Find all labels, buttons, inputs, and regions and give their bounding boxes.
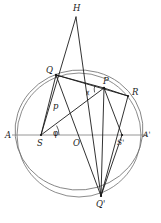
segment-S-P (41, 88, 104, 135)
point-label-Sprime: S' (117, 138, 124, 147)
segment-P-Qprime (101, 88, 104, 196)
tilted-ellipse (9, 64, 149, 197)
point-label-Q: Q (46, 65, 53, 75)
geometry-figure: H Q P R A S O S' A' Q' p φ χ (0, 0, 161, 223)
annotation-label-phi: φ (53, 129, 58, 138)
segment-Q-Qprime (56, 75, 101, 196)
vertex-dot-P (103, 87, 105, 89)
segment-P-R (104, 88, 128, 96)
conic-curves (9, 64, 149, 197)
point-label-H: H (72, 3, 81, 13)
vertex-dot-Q (55, 74, 57, 76)
vertex-dot-R (127, 95, 129, 97)
geometry-canvas: H Q P R A S O S' A' Q' p φ χ (0, 0, 161, 223)
vertex-dot-Qprime (100, 195, 102, 197)
point-label-R: R (131, 87, 139, 97)
annotation-label-chi: χ (86, 88, 90, 96)
vertex-dot-Sprime (121, 134, 123, 136)
point-label-P: P (102, 76, 109, 86)
point-label-S: S (37, 138, 43, 148)
point-label-A: A (4, 130, 11, 140)
point-label-O: O (73, 138, 80, 148)
point-labels: H Q P R A S O S' A' Q' (4, 3, 150, 209)
vertex-dot-S (40, 134, 42, 136)
annotation-label-p: p (53, 101, 59, 111)
angle-arc-chi (94, 86, 95, 93)
point-label-Qprime: Q' (96, 199, 105, 209)
point-label-Aprime: A' (142, 130, 150, 139)
